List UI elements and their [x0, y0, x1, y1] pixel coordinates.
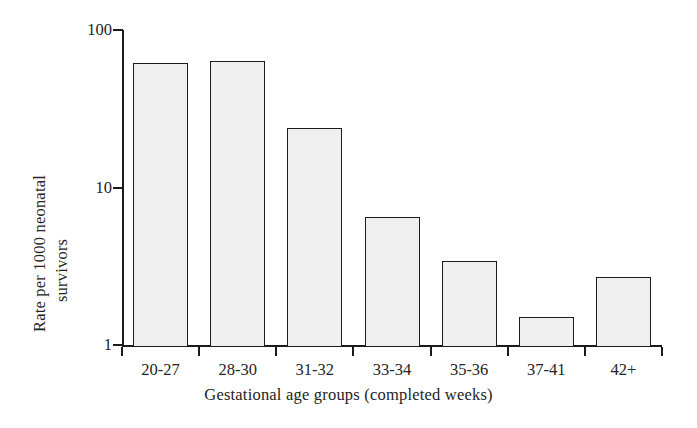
y-tick-mark-10 — [113, 187, 123, 189]
x-tick-mark-4 — [430, 347, 432, 356]
x-tick-mark-5 — [507, 347, 509, 356]
x-tick-label-42+: 42+ — [585, 362, 662, 379]
x-tick-mark-0 — [121, 347, 123, 356]
bar-42+ — [596, 277, 651, 347]
x-tick-mark-2 — [275, 347, 277, 356]
x-tick-label-37-41: 37-41 — [508, 362, 585, 379]
y-tick-label-100: 100 — [68, 22, 112, 39]
x-tick-label-33-34: 33-34 — [353, 362, 430, 379]
x-tick-mark-1 — [198, 347, 200, 356]
y-tick-mark-1 — [113, 344, 123, 346]
x-tick-label-31-32: 31-32 — [276, 362, 353, 379]
x-tick-mark-6 — [584, 347, 586, 356]
bar-20-27 — [133, 63, 188, 347]
x-tick-label-28-30: 28-30 — [199, 362, 276, 379]
figure-bar-chart: Rate per 1000 neonatal survivors 100 10 … — [0, 0, 697, 428]
y-tick-label-10: 10 — [68, 180, 112, 197]
bar-35-36 — [442, 261, 497, 347]
bar-37-41 — [519, 317, 574, 347]
plot-area: 100 10 1 20-2728-3031-3233-3435-3637-414… — [0, 0, 697, 428]
x-axis-title: Gestational age groups (completed weeks) — [0, 385, 697, 405]
x-tick-mark-7 — [661, 347, 663, 356]
x-tick-label-20-27: 20-27 — [122, 362, 199, 379]
y-tick-mark-100 — [113, 29, 123, 31]
bar-31-32 — [287, 128, 342, 347]
y-axis-line — [122, 30, 124, 347]
y-tick-label-1: 1 — [68, 337, 112, 354]
bar-33-34 — [365, 217, 420, 347]
x-tick-mark-3 — [352, 347, 354, 356]
bar-28-30 — [210, 61, 265, 347]
x-tick-label-35-36: 35-36 — [431, 362, 508, 379]
